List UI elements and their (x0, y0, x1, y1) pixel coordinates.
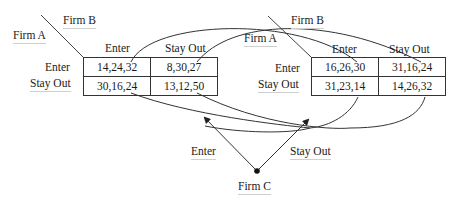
cell-A-stayout-B-enter: 31,23,14 (312, 77, 379, 96)
cell-A-stayout-B-stayout: 13,12,50 (151, 77, 218, 96)
left-payoff-matrix: 14,24,32 8,30,27 30,16,24 13,12,50 (83, 57, 218, 96)
cell-A-stayout-B-enter: 30,16,24 (84, 77, 151, 96)
left-col-player-label: Firm B (63, 14, 96, 29)
curve-stayout-stayout (197, 93, 425, 128)
left-row-player-label: Firm A (13, 29, 46, 44)
left-col-label-stayout: Stay Out (165, 42, 206, 55)
right-col-player-label: Firm B (291, 14, 324, 29)
curve-stayout-enter (131, 93, 358, 128)
right-row-player-label: Firm A (244, 32, 277, 47)
branch-enter-label: Enter (191, 145, 216, 160)
cell-A-enter-B-enter: 16,26,30 (312, 58, 379, 77)
right-row-label-enter: Enter (275, 62, 300, 75)
cell-A-enter-B-stayout: 31,16,24 (379, 58, 446, 77)
right-col-label-stayout: Stay Out (389, 43, 430, 56)
cell-A-enter-B-stayout: 8,30,27 (151, 58, 218, 77)
right-payoff-matrix: 16,26,30 31,16,24 31,23,14 14,26,32 (311, 57, 446, 96)
left-row-label-enter: Enter (45, 61, 70, 74)
branch-stayout-label: Stay Out (290, 145, 331, 160)
cell-A-stayout-B-stayout: 14,26,32 (379, 77, 446, 96)
connector-lines (0, 0, 465, 200)
right-col-label-enter: Enter (332, 43, 357, 56)
left-col-label-enter: Enter (105, 42, 130, 55)
cell-A-enter-B-enter: 14,24,32 (84, 58, 151, 77)
firm-c-node (254, 168, 260, 174)
firm-c-label: Firm C (238, 180, 271, 195)
right-row-label-stayout: Stay Out (258, 78, 299, 93)
left-row-label-stayout: Stay Out (30, 77, 71, 92)
